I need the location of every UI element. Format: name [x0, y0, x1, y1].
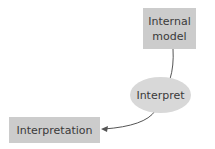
interpret-node: Interpret	[130, 77, 191, 113]
arrowhead-icon	[101, 126, 108, 132]
internal-model-line2: model	[148, 29, 190, 44]
edge-interpret-to-interpretation	[104, 111, 155, 129]
interpret-label: Interpret	[136, 89, 184, 102]
internal-model-node: Internal model	[143, 8, 196, 49]
internal-model-line1: Internal	[148, 14, 190, 29]
interpretation-label: Interpretation	[17, 123, 93, 138]
interpretation-node: Interpretation	[9, 117, 100, 143]
edge-model-to-interpret	[170, 49, 173, 79]
